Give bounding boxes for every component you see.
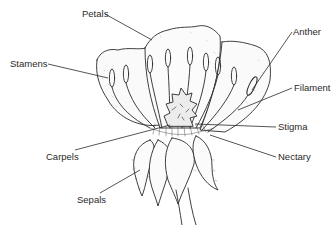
sepal-center: [165, 138, 194, 204]
label-petals: Petals: [82, 9, 108, 19]
flower-diagram: Petals Stamens Anther Filament Stigma Ne…: [0, 0, 334, 225]
sepal-right: [193, 136, 218, 190]
leader-nectary: [210, 135, 276, 157]
label-carpels: Carpels: [46, 152, 79, 162]
leader-petals: [105, 14, 152, 40]
label-filament: Filament: [294, 83, 330, 93]
label-nectary: Nectary: [278, 152, 311, 162]
leader-sepals: [100, 170, 140, 193]
label-sepals: Sepals: [77, 195, 106, 205]
label-stamens: Stamens: [10, 59, 48, 69]
label-stigma: Stigma: [278, 122, 308, 132]
flower-illustration: [0, 0, 334, 225]
label-anther: Anther: [293, 27, 321, 37]
